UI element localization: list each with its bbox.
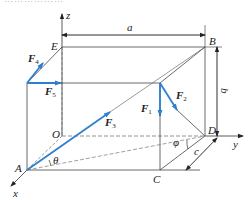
dimension-c-label: c [194,145,199,157]
point-O-label: O [52,128,60,140]
angle-theta-arc [49,160,51,166]
dimension-a [62,25,205,47]
dimension-a-label: a [127,21,133,33]
point-A-label: A [14,162,22,174]
point-C-label: C [153,173,161,185]
x-axis-label: x [12,187,18,199]
force-F3 [27,112,110,170]
force-F2-label: F2 [175,89,187,103]
dimension-b-label: b [219,88,231,94]
point-B-label: B [209,35,216,47]
angle-phi-arc [187,140,188,149]
z-axis-label: z [65,9,71,21]
point-D-label: D [207,124,216,136]
force-F5-label: F5 [44,85,56,99]
dimension-c [186,138,217,170]
diagonal-A-B [110,47,205,112]
force-F1-label: F1 [140,102,152,116]
force-F4 [27,63,43,83]
point-E-label: E [50,40,58,52]
angle-phi-label: φ [173,136,179,148]
force-F4-label: F4 [27,52,39,66]
force-F2 [160,83,177,110]
force-F3-label: F3 [104,116,116,130]
force-diagram: z y x a b [0,0,248,200]
y-axis-label: y [232,138,238,150]
angle-theta-label: θ [53,154,59,166]
